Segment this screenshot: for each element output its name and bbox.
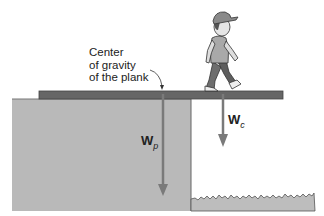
weight-child-symbol: W [228,112,240,127]
cog-pointer-arrow [150,70,162,86]
weight-child-subscript: c [240,120,245,130]
plank [39,91,283,99]
grass-ground [191,193,315,211]
cog-annotation-line-1: Center [89,46,148,59]
weight-child-label: Wc [228,112,245,130]
child-figure [205,12,241,91]
weight-child-arrow-head [218,134,228,147]
cog-pointer-head [160,85,164,90]
weight-plank-label: Wp [141,133,158,151]
weight-plank-symbol: W [141,133,153,148]
diagram-canvas [0,0,324,216]
cog-annotation-line-3: of the plank [89,71,148,84]
cog-annotation-line-2: of gravity [89,59,148,72]
cog-annotation: Center of gravity of the plank [89,46,148,84]
weight-plank-subscript: p [153,141,158,151]
